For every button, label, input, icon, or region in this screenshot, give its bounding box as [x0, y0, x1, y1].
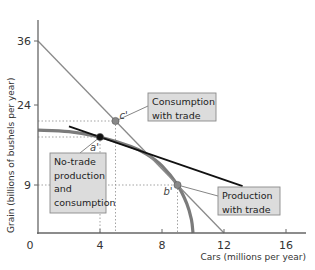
x-axis-title: Cars (millions per year): [201, 252, 307, 262]
y-tick-label: 24: [17, 99, 31, 112]
x-tick-label: 4: [97, 239, 104, 252]
consumption-with-trade-label-text: with trade: [152, 110, 201, 121]
no-trade-label-text: consumption: [54, 197, 116, 208]
consumption-with-trade-label: c': [120, 110, 128, 121]
consumption-with-trade-marker: [112, 117, 119, 124]
no-trade-label-text: No-trade: [54, 156, 96, 167]
production-with-trade-label: b': [164, 186, 173, 197]
y-tick-label: 36: [17, 35, 31, 48]
ticks-group: 048121692436: [17, 35, 293, 252]
no-trade-point-marker: [96, 133, 103, 140]
x-tick-label: 8: [159, 239, 166, 252]
no-trade-label-text: and: [54, 183, 72, 194]
x-tick-label: 16: [279, 239, 293, 252]
x-tick-label: 0: [27, 239, 34, 252]
y-tick-label: 9: [24, 179, 31, 192]
production-with-trade-marker: [174, 181, 181, 188]
consumption-with-trade-label-text: Consumption: [152, 96, 215, 107]
no-trade-label-text: production: [54, 170, 105, 181]
production-with-trade-label-text: with trade: [222, 204, 271, 215]
ppf-chart: 048121692436 Cars (millions per year) Gr…: [0, 0, 315, 270]
x-tick-label: 12: [217, 239, 231, 252]
production-with-trade-label-text: Production: [222, 190, 273, 201]
y-axis-title: Grain (billions of bushels per year): [6, 77, 16, 233]
no-trade-point-label: a': [90, 142, 99, 153]
